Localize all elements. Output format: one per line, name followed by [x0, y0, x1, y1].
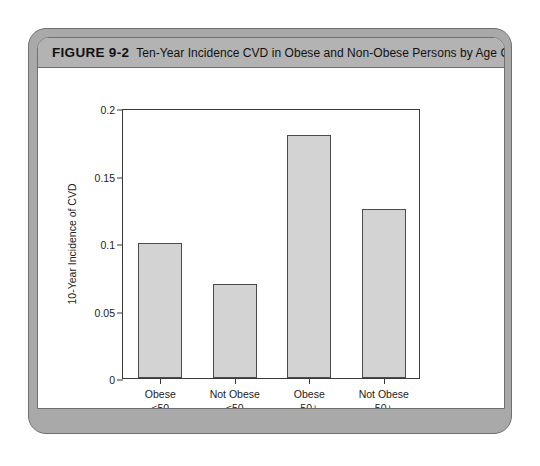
- bar: [213, 284, 257, 379]
- y-axis-title-text: 10-Year Incidence of CVD: [66, 183, 78, 304]
- y-axis-tick-mark: [117, 110, 123, 111]
- x-axis-category-line: 50+: [294, 401, 325, 409]
- y-axis-tick-mark: [117, 245, 123, 246]
- chart-area: 10-Year Incidence of CVD 00.050.10.150.2…: [38, 68, 505, 409]
- x-axis-category-line: <50: [210, 401, 260, 409]
- figure-caption-text: Ten-Year Incidence CVD in Obese and Non-…: [136, 46, 505, 60]
- x-axis-category-label: Obese<50: [145, 387, 176, 409]
- y-axis-tick-label: 0.15: [95, 172, 115, 184]
- y-axis-tick-mark: [117, 312, 123, 313]
- bar: [287, 135, 331, 378]
- x-axis-category-line: Not Obese: [359, 387, 409, 401]
- y-axis-tick-mark: [117, 177, 123, 178]
- x-axis-category-line: Not Obese: [210, 387, 260, 401]
- plot-frame: 00.050.10.150.2Obese<50Not Obese<50Obese…: [122, 109, 420, 379]
- x-axis-category-label: Not Obese<50: [210, 387, 260, 409]
- x-axis-category-label: Not Obese50+: [359, 387, 409, 409]
- y-axis-tick-label: 0.2: [100, 104, 115, 116]
- y-axis-tick-label: 0: [109, 374, 115, 386]
- x-axis-category-line: <50: [145, 401, 176, 409]
- x-axis-category-label: Obese50+: [294, 387, 325, 409]
- figure-title-band: FIGURE 9-2 Ten-Year Incidence CVD in Obe…: [38, 38, 504, 68]
- y-axis-tick-label: 0.1: [100, 239, 115, 251]
- bar: [362, 209, 406, 378]
- figure-card: FIGURE 9-2 Ten-Year Incidence CVD in Obe…: [28, 28, 512, 434]
- x-axis-category-line: 50+: [359, 401, 409, 409]
- figure-inner-panel: FIGURE 9-2 Ten-Year Incidence CVD in Obe…: [37, 37, 505, 409]
- x-axis-tick-mark: [160, 378, 161, 384]
- figure-number-label: FIGURE 9-2: [52, 45, 129, 60]
- x-axis-category-line: Obese: [294, 387, 325, 401]
- y-axis-title: 10-Year Incidence of CVD: [64, 109, 80, 379]
- y-axis-tick-mark: [117, 380, 123, 381]
- bar: [138, 243, 182, 378]
- x-axis-category-line: Obese: [145, 387, 176, 401]
- x-axis-tick-mark: [384, 378, 385, 384]
- y-axis-tick-label: 0.05: [95, 307, 115, 319]
- x-axis-tick-mark: [235, 378, 236, 384]
- x-axis-tick-mark: [309, 378, 310, 384]
